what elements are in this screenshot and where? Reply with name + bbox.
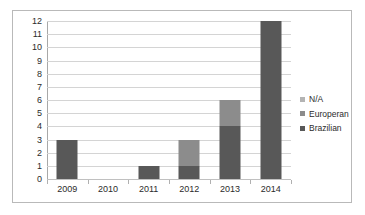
- x-axis-tick-labels: 200920102011201220132014: [47, 180, 291, 200]
- x-axis-tickmark: [47, 180, 48, 184]
- x-axis-tick-label: 2012: [179, 185, 199, 194]
- legend-item[interactable]: N/A: [300, 95, 364, 104]
- y-axis-tick-label: 4: [37, 122, 47, 131]
- y-axis-tick-label: 0: [37, 175, 47, 184]
- bar-slot: [210, 21, 251, 179]
- bar-slot: [47, 21, 88, 179]
- x-axis-tickmark: [250, 180, 251, 184]
- y-axis-tick-label: 9: [37, 56, 47, 65]
- bar-stack[interactable]: [219, 100, 240, 179]
- bar-slot: [169, 21, 210, 179]
- y-axis-tick-label: 6: [37, 96, 47, 105]
- plot-area: 0123456789101112: [47, 21, 291, 179]
- bar-slot: [88, 21, 129, 179]
- bar-segment[interactable]: [260, 21, 281, 179]
- legend-swatch-icon: [300, 111, 305, 116]
- legend-label: N/A: [309, 95, 323, 104]
- x-axis-tickmark: [88, 180, 89, 184]
- legend-swatch-icon: [300, 126, 305, 131]
- legend-swatch-icon: [300, 97, 305, 102]
- chart-container: 0123456789101112 20092010201120122013201…: [12, 10, 352, 203]
- bar-segment[interactable]: [219, 100, 240, 126]
- bar-stack[interactable]: [138, 166, 159, 179]
- x-axis-tick-label: 2010: [98, 185, 118, 194]
- y-axis-tick-label: 12: [32, 17, 47, 26]
- legend-label: Europeran: [309, 110, 349, 119]
- x-axis-tickmark: [169, 180, 170, 184]
- legend-label: Brazilian: [309, 124, 342, 133]
- x-axis-tick-label: 2011: [139, 185, 158, 194]
- y-axis-tick-label: 8: [37, 69, 47, 78]
- bar-segment[interactable]: [57, 140, 78, 180]
- x-axis-tickmark: [210, 180, 211, 184]
- bar-stack[interactable]: [260, 21, 281, 179]
- bar-stack[interactable]: [57, 140, 78, 180]
- legend-item[interactable]: Brazilian: [300, 124, 364, 133]
- y-axis-tick-label: 10: [32, 43, 47, 52]
- bar-segment[interactable]: [138, 166, 159, 179]
- bar-segment[interactable]: [179, 166, 200, 179]
- y-axis-tick-label: 11: [33, 30, 47, 39]
- y-axis-tick-label: 1: [37, 161, 47, 170]
- x-axis-tick-label: 2009: [57, 185, 77, 194]
- bars-layer: [47, 21, 291, 179]
- legend-item[interactable]: Europeran: [300, 110, 364, 119]
- y-axis-tick-label: 5: [37, 109, 47, 118]
- bar-segment[interactable]: [219, 126, 240, 179]
- bar-segment[interactable]: [179, 140, 200, 166]
- bar-slot: [250, 21, 291, 179]
- bar-slot: [128, 21, 169, 179]
- chart-legend: N/AEuroperanBrazilian: [300, 95, 364, 139]
- x-axis-tickmark: [291, 180, 292, 184]
- y-axis-tick-label: 3: [37, 135, 47, 144]
- y-axis-tick-label: 2: [37, 148, 47, 157]
- y-axis-tick-label: 7: [37, 82, 47, 91]
- bar-stack[interactable]: [179, 140, 200, 179]
- x-axis-tick-label: 2013: [220, 185, 240, 194]
- x-axis-tick-label: 2014: [261, 185, 281, 194]
- x-axis-tickmark: [128, 180, 129, 184]
